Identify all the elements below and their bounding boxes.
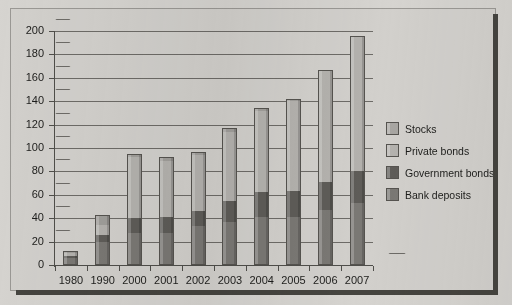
bar-1980[interactable] (63, 251, 78, 265)
bar-segment-government-bonds[interactable] (254, 192, 269, 217)
legend-item-label: Stocks (405, 123, 437, 135)
bar-segment-stocks[interactable] (254, 108, 269, 110)
x-tick-label-2006: 2006 (309, 274, 341, 286)
x-tick-mark (278, 266, 279, 271)
legend-swatch-icon (386, 188, 399, 201)
y-tick-label: 160 (26, 71, 44, 83)
bar-segment-bank-deposits[interactable] (286, 217, 301, 265)
bar-segment-private-bonds[interactable] (159, 161, 174, 217)
bar-2006[interactable] (318, 70, 333, 265)
bar-segment-bank-deposits[interactable] (159, 233, 174, 265)
bar-segment-bank-deposits[interactable] (191, 226, 206, 265)
frame-shadow-bottom (16, 290, 498, 295)
bar-segment-government-bonds[interactable] (318, 182, 333, 210)
gridline (55, 31, 373, 32)
bar-segment-private-bonds[interactable] (63, 253, 78, 255)
bar-segment-private-bonds[interactable] (350, 37, 365, 172)
x-tick-mark (119, 266, 120, 271)
bar-segment-private-bonds[interactable] (191, 155, 206, 211)
y-tick-mark (49, 31, 54, 32)
bar-2007[interactable] (350, 36, 365, 265)
y-tick-label: 40 (32, 211, 44, 223)
bar-segment-private-bonds[interactable] (95, 225, 110, 234)
y-tick-mark (49, 218, 54, 219)
bar-segment-government-bonds[interactable] (95, 235, 110, 242)
bar-2000[interactable] (127, 154, 142, 265)
bar-segment-bank-deposits[interactable] (127, 233, 142, 265)
bar-segment-bank-deposits[interactable] (63, 258, 78, 265)
legend-item-label: Private bonds (405, 145, 469, 157)
bar-segment-stocks[interactable] (63, 251, 78, 253)
bar-2001[interactable] (159, 157, 174, 265)
bar-segment-private-bonds[interactable] (222, 132, 237, 201)
bar-segment-private-bonds[interactable] (254, 111, 269, 193)
x-tick-mark (341, 266, 342, 271)
y-tick-mark (49, 54, 54, 55)
bar-segment-stocks[interactable] (222, 128, 237, 132)
bar-segment-stocks[interactable] (318, 70, 333, 71)
x-tick-label-1980: 1980 (55, 274, 87, 286)
bar-segment-private-bonds[interactable] (318, 71, 333, 182)
bar-segment-bank-deposits[interactable] (318, 210, 333, 265)
bar-segment-stocks[interactable] (350, 36, 365, 37)
y-tick-mark (49, 148, 54, 149)
legend-item-stocks[interactable]: Stocks (386, 119, 494, 138)
legend-item-label: Bank deposits (405, 189, 471, 201)
x-tick-mark (246, 266, 247, 271)
bar-segment-bank-deposits[interactable] (222, 222, 237, 265)
y-tick-mark (49, 195, 54, 196)
bar-segment-private-bonds[interactable] (127, 157, 142, 218)
legend-item-government-bonds[interactable]: Government bonds (386, 163, 494, 182)
bar-segment-stocks[interactable] (286, 99, 301, 101)
x-tick-mark (214, 266, 215, 271)
bar-segment-government-bonds[interactable] (159, 217, 174, 233)
x-tick-label-2004: 2004 (246, 274, 278, 286)
y-axis-line (54, 31, 55, 267)
y-tick-label: 60 (32, 188, 44, 200)
y-tick-mark (49, 101, 54, 102)
bar-segment-stocks[interactable] (95, 215, 110, 226)
bar-2005[interactable] (286, 99, 301, 265)
bar-2002[interactable] (191, 152, 206, 265)
bar-1990[interactable] (95, 215, 110, 265)
bar-segment-stocks[interactable] (127, 154, 142, 158)
x-tick-label-2005: 2005 (278, 274, 310, 286)
bar-segment-stocks[interactable] (159, 157, 174, 161)
bar-segment-bank-deposits[interactable] (254, 217, 269, 265)
bar-segment-government-bonds[interactable] (286, 191, 301, 217)
y-tick-mark (49, 265, 54, 266)
frame-shadow-right (493, 14, 498, 295)
y-tick-label: 200 (26, 24, 44, 36)
bar-segment-government-bonds[interactable] (222, 201, 237, 222)
x-tick-label-2000: 2000 (119, 274, 151, 286)
y-tick-mark (49, 171, 54, 172)
bar-segment-government-bonds[interactable] (191, 211, 206, 226)
legend-swatch-icon (386, 166, 399, 179)
bar-segment-government-bonds[interactable] (350, 171, 365, 203)
legend-item-label: Government bonds (405, 167, 494, 179)
legend-swatch-icon (386, 144, 399, 157)
y-tick-mark (49, 125, 54, 126)
legend-swatch-icon (386, 122, 399, 135)
bar-2003[interactable] (222, 128, 237, 265)
y-tick-label: 140 (26, 94, 44, 106)
chart-legend: StocksPrivate bondsGovernment bondsBank … (386, 119, 494, 207)
y-tick-mark (49, 242, 54, 243)
bar-segment-stocks[interactable] (191, 152, 206, 156)
legend-item-bank-deposits[interactable]: Bank deposits (386, 185, 494, 204)
x-tick-mark (309, 266, 310, 271)
bar-segment-bank-deposits[interactable] (350, 203, 365, 265)
y-tick-label: 80 (32, 164, 44, 176)
scanned-page: 020406080100120140160180200 198019902000… (0, 0, 512, 305)
bar-segment-government-bonds[interactable] (63, 256, 78, 258)
floor-depth-line (373, 253, 406, 267)
bar-segment-private-bonds[interactable] (286, 101, 301, 191)
y-tick-label: 180 (26, 47, 44, 59)
chart-figure: 020406080100120140160180200 198019902000… (10, 8, 496, 291)
bar-segment-government-bonds[interactable] (127, 218, 142, 233)
plot-area (55, 31, 373, 265)
bar-segment-bank-deposits[interactable] (95, 242, 110, 265)
legend-item-private-bonds[interactable]: Private bonds (386, 141, 494, 160)
y-tick-label: 100 (26, 141, 44, 153)
bar-2004[interactable] (254, 108, 269, 265)
